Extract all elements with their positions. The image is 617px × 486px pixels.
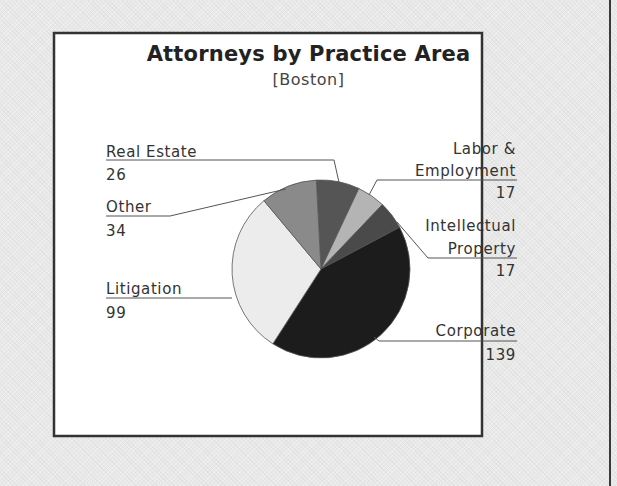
value-ip: 17 xyxy=(496,262,516,280)
label-corporate: Corporate xyxy=(436,322,516,340)
value-corporate: 139 xyxy=(486,346,516,364)
chart-title: Attorneys by Practice Area xyxy=(0,42,617,66)
label-other: Other xyxy=(106,198,152,216)
chart-subtitle: [Boston] xyxy=(0,70,617,89)
label-ip-line2: Property xyxy=(448,240,516,258)
value-real-estate: 26 xyxy=(106,166,126,184)
value-labor: 17 xyxy=(496,184,516,202)
label-litigation: Litigation xyxy=(106,280,182,298)
label-labor-line1: Labor & xyxy=(453,140,516,158)
label-ip-line1: Intellectual xyxy=(425,217,516,235)
value-other: 34 xyxy=(106,222,126,240)
label-labor-line2: Employment xyxy=(415,162,516,180)
pie-chart xyxy=(232,180,410,358)
value-litigation: 99 xyxy=(106,304,126,322)
label-real-estate: Real Estate xyxy=(106,143,197,161)
